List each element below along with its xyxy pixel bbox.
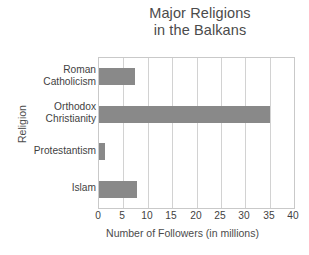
bar xyxy=(99,181,137,198)
category-label-orthodox-christianity: Orthodox Christianity xyxy=(0,101,96,125)
gridline xyxy=(221,58,222,208)
chart-title: Major Religions in the Balkans xyxy=(96,5,304,39)
x-axis-title: Number of Followers (in millions) xyxy=(60,227,305,239)
category-label-protestantism: Protestantism xyxy=(0,145,96,157)
plot-area xyxy=(98,57,295,209)
bar xyxy=(99,68,135,85)
category-label-roman-catholicism: Roman Catholicism xyxy=(0,64,96,88)
gridline xyxy=(197,58,198,208)
bar-chart: Major Religions in the Balkans Religion … xyxy=(0,0,309,255)
bar xyxy=(99,143,105,160)
gridline xyxy=(172,58,173,208)
gridline xyxy=(245,58,246,208)
gridline xyxy=(270,58,271,208)
category-label-islam: Islam xyxy=(0,182,96,194)
bar xyxy=(99,106,270,123)
x-tick-label: 40 xyxy=(278,210,308,221)
gridline xyxy=(148,58,149,208)
